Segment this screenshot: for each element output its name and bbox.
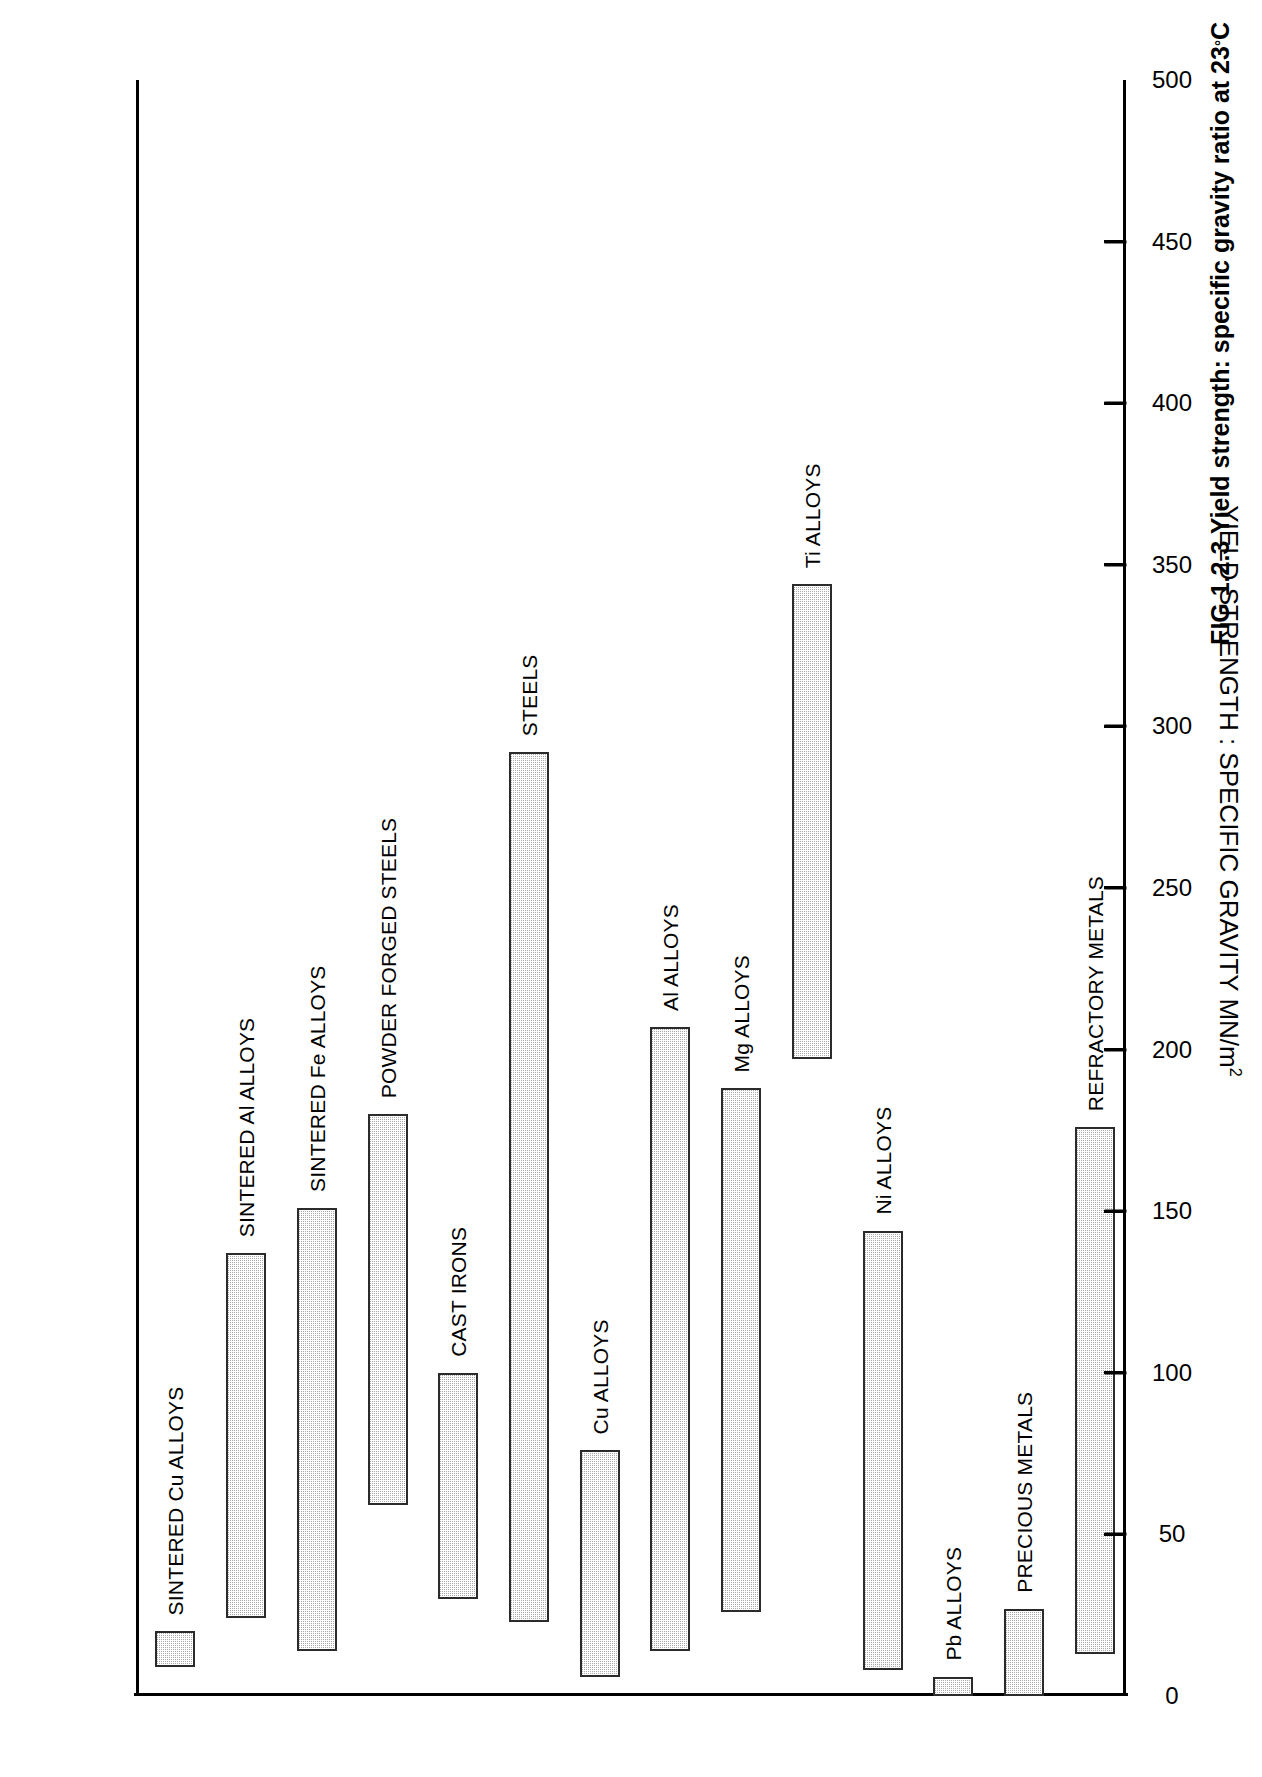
bar-label: SINTERED Al ALLOYS: [236, 1018, 257, 1238]
value-axis-line: [134, 1693, 1128, 1696]
axis-tick-mark: [1104, 887, 1126, 890]
bar-label: POWDER FORGED STEELS: [377, 818, 398, 1099]
bar: [933, 1677, 973, 1696]
bar-label: Al ALLOYS: [660, 904, 681, 1011]
bar: [580, 1450, 620, 1676]
bar: [721, 1088, 761, 1612]
bar: [792, 584, 832, 1059]
bar-label: PRECIOUS METALS: [1013, 1392, 1034, 1593]
bar-label: Ni ALLOYS: [872, 1107, 893, 1215]
plot-frame: [136, 80, 1126, 1696]
chart-canvas: SINTERED Cu ALLOYSSINTERED Al ALLOYSSINT…: [136, 80, 1126, 1696]
bar: [863, 1231, 903, 1671]
axis-tick-mark: [1104, 1048, 1126, 1051]
axis-tick-mark: [1104, 1533, 1126, 1536]
axis-tick-mark: [1104, 402, 1126, 405]
bar-label: Cu ALLOYS: [589, 1319, 610, 1434]
bar: [226, 1253, 266, 1618]
bar: [1004, 1609, 1044, 1696]
bar: [297, 1208, 337, 1651]
bar-label: SINTERED Cu ALLOYS: [165, 1387, 186, 1616]
bar-label: Ti ALLOYS: [801, 463, 822, 568]
axis-tick-mark: [1104, 1210, 1126, 1213]
bar-label: STEELS: [518, 655, 539, 737]
bar: [438, 1373, 478, 1599]
bar-label: CAST IRONS: [448, 1227, 469, 1357]
bar-label: Mg ALLOYS: [731, 955, 752, 1072]
bar: [155, 1631, 195, 1667]
bar: [368, 1114, 408, 1505]
axis-tick-mark: [1104, 240, 1126, 243]
bar: [650, 1027, 690, 1651]
axis-tick-label: 0: [1165, 1684, 1178, 1708]
bar-label: SINTERED Fe ALLOYS: [306, 965, 327, 1192]
bar-label: REFRACTORY METALS: [1084, 876, 1105, 1111]
bar: [509, 752, 549, 1621]
axis-tick-mark: [1104, 1371, 1126, 1374]
bar: [1075, 1127, 1115, 1654]
bar-label: Pb ALLOYS: [943, 1547, 964, 1661]
figure-caption-text: FIG 1.2.3 Yield strength: specific gravi…: [1178, 0, 1262, 1777]
figure-caption: FIG 1.2.3 Yield strength: specific gravi…: [1178, 0, 1262, 1777]
axis-tick-mark: [1104, 563, 1126, 566]
axis-tick-mark: [1104, 725, 1126, 728]
